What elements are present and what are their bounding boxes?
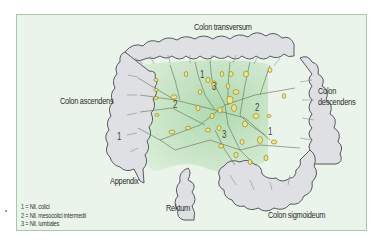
node-group-2-label: 2 [173, 100, 177, 110]
label-appendix: Appendix [110, 176, 139, 187]
legend: 1 = Nll. colici 2 = Nll. mesocolici inte… [21, 203, 86, 229]
colon-descendens-shape [300, 57, 342, 164]
node-group-1-label: 1 [200, 70, 204, 80]
label-colon-descendens-line1: Colon [318, 86, 336, 97]
label-rektum: Rektum [166, 203, 190, 214]
node-group-3-label: 3 [212, 82, 216, 92]
node-group-3-label: 3 [222, 130, 226, 140]
legend-item-3: 3 = Nll. lumbales [21, 220, 86, 229]
label-colon-ascendens: Colon ascendens [60, 96, 113, 107]
node-group-1-label: 1 [117, 132, 121, 142]
label-colon-sigmoideum: Colon sigmoideum [268, 210, 325, 221]
legend-item-2: 2 = Nll. mesocolici intermedii [21, 212, 86, 221]
legend-item-1: 1 = Nll. colici [21, 203, 86, 212]
node-group-2-label: 2 [255, 103, 259, 113]
label-colon-descendens-line2: descendens [318, 97, 355, 108]
label-colon-transversum: Colon transversum [194, 22, 252, 33]
node-group-1-label: 1 [268, 127, 272, 137]
